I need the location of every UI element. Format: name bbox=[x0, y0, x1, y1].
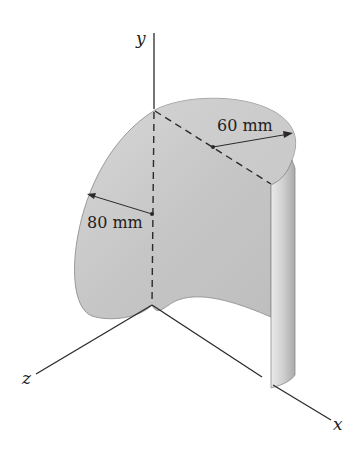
x-axis-extension bbox=[273, 385, 331, 420]
x-axis bbox=[152, 305, 262, 377]
z-axis-label: z bbox=[21, 368, 32, 388]
surface-diagram: y z x 60 mm 80 mm bbox=[0, 0, 362, 449]
center-point-side bbox=[150, 212, 154, 216]
edge-strip bbox=[271, 160, 295, 388]
radius-60-label: 60 mm bbox=[217, 116, 273, 135]
center-point-top bbox=[211, 145, 215, 149]
y-axis-label: y bbox=[135, 28, 146, 48]
radius-80-label: 80 mm bbox=[87, 213, 143, 232]
x-axis-label: x bbox=[333, 414, 343, 434]
